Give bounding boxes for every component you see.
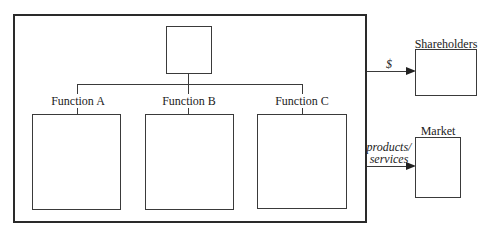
function-b-box [145,114,234,210]
dollar-flow-label: $ [386,58,392,70]
connector-horizontal [77,84,303,85]
connector-vertical-top [188,73,189,84]
connector-drop-c [302,84,303,94]
function-a-label: Function A [51,95,105,107]
connector-drop-b [188,84,189,94]
dollar-flow-arrow-line [367,71,407,72]
management-box [166,26,212,74]
function-c-label: Function C [275,95,329,107]
function-c-box [257,114,347,209]
market-label: Market [421,125,456,137]
connector-drop-a [77,84,78,94]
function-a-box [32,114,121,210]
function-b-label: Function B [162,95,216,107]
products-flow-label-line2: services [370,153,409,165]
market-box [415,137,461,198]
shareholders-box [415,49,477,96]
products-flow-arrow-line [367,166,407,167]
